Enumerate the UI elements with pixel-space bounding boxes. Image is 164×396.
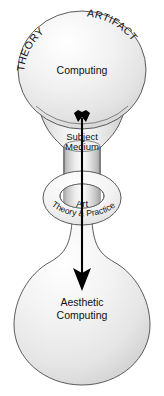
sphere-center-label: Computing — [57, 64, 108, 76]
ring-label-art: Art — [76, 198, 89, 209]
hourglass-figure: THEORY ARTIFACT Computing Subject Medium… — [0, 0, 164, 396]
bulb-label-line2: Computing — [57, 309, 108, 321]
aesthetic-computing-diagram: THEORY ARTIFACT Computing Subject Medium… — [0, 0, 164, 396]
neck-label-line2: Medium — [65, 141, 99, 152]
bulb-label-line1: Aesthetic — [60, 296, 103, 308]
